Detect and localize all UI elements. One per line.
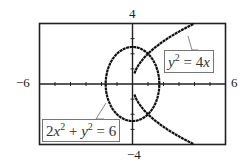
ellipse-callout-line [96, 103, 106, 119]
parabola-callout-line [188, 36, 198, 50]
x-max-label: 6 [231, 75, 238, 91]
x-min-label: −6 [16, 75, 30, 91]
parabola-equation-label: y2 = 4x [164, 50, 214, 73]
parabola-lower-branch [134, 95, 194, 145]
y-max-label: 4 [129, 6, 136, 22]
graph-plot [0, 0, 247, 168]
y-min-label: −4 [127, 147, 141, 163]
ellipse-equation-label: 2x2 + y2 = 6 [42, 119, 120, 142]
